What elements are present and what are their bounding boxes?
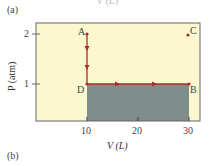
point-d-label: D <box>77 84 84 95</box>
point-c-label: C <box>190 25 197 36</box>
x-axis-label: V (L) <box>107 140 128 151</box>
point-a-label: A <box>78 26 85 37</box>
point-d <box>85 82 88 85</box>
x-tick-label-30: 30 <box>183 125 193 136</box>
point-a <box>85 32 88 35</box>
y-tick-label-2: 2 <box>24 28 29 39</box>
panel-b-label: (b) <box>7 150 19 161</box>
shaded-work-area <box>87 84 189 121</box>
x-tick-label-10: 10 <box>81 125 91 136</box>
pv-diagram <box>0 0 210 166</box>
point-b-label: B <box>190 84 197 95</box>
x-tick-label-20: 20 <box>132 125 142 136</box>
y-tick-label-1: 1 <box>24 78 29 89</box>
y-axis-label: P (atm) <box>6 62 17 91</box>
